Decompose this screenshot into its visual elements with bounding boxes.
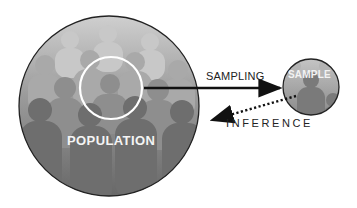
inference-label: INFERENCE [226, 118, 313, 129]
diagram-canvas [0, 0, 357, 208]
sampling-label: SAMPLING [206, 71, 264, 82]
population-circle [19, 16, 204, 206]
population-label: POPULATION [67, 134, 155, 147]
sample-label: SAMPLE [288, 70, 331, 80]
